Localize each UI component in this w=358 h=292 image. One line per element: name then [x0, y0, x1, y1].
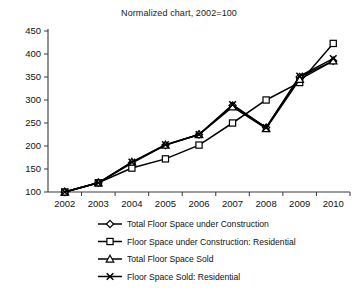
legend-item-3[interactable]: Total Floor Space Sold [98, 254, 214, 264]
chart-plot-area: 100150200250300350400450 200220032004200… [0, 0, 358, 292]
series-line [65, 59, 333, 192]
marker-square [196, 142, 202, 148]
series-4 [61, 55, 336, 195]
legend-label: Floor Space under Construction: Resident… [127, 237, 296, 247]
marker-diamond [106, 220, 113, 227]
y-tick-label: 250 [25, 117, 41, 128]
marker-square [129, 165, 135, 171]
y-axis: 100150200250300350400450 [25, 25, 48, 197]
x-tick-label: 2004 [121, 198, 142, 209]
series-line [65, 61, 333, 192]
y-tick-label: 300 [25, 94, 41, 105]
x-tick-label: 2009 [289, 198, 310, 209]
series-layer [61, 40, 337, 195]
marker-square [263, 97, 269, 103]
y-tick-label: 100 [25, 186, 41, 197]
x-tick-label: 2003 [88, 198, 109, 209]
chart-container: Normalized chart, 2002=100 1001502002503… [0, 0, 358, 292]
marker-square [229, 120, 235, 126]
x-tick-label: 2007 [222, 198, 243, 209]
y-tick-label: 450 [25, 25, 41, 36]
chart-legend: Total Floor Space under ConstructionFloo… [98, 219, 296, 282]
series-2 [62, 40, 337, 195]
x-tick-label: 2002 [54, 198, 75, 209]
y-tick-label: 350 [25, 71, 41, 82]
marker-square [330, 40, 336, 46]
x-tick-label: 2010 [323, 198, 344, 209]
marker-square [162, 156, 168, 162]
series-3 [61, 57, 337, 195]
series-1 [61, 57, 337, 195]
legend-label: Floor Space Sold: Residential [127, 272, 240, 282]
legend-label: Total Floor Space Sold [127, 254, 214, 264]
y-tick-label: 400 [25, 48, 41, 59]
x-tick-label: 2008 [256, 198, 277, 209]
marker-square [107, 238, 113, 244]
legend-item-1[interactable]: Total Floor Space under Construction [98, 219, 269, 229]
legend-item-4[interactable]: Floor Space Sold: Residential [98, 272, 240, 282]
legend-item-2[interactable]: Floor Space under Construction: Resident… [98, 237, 296, 247]
y-tick-label: 150 [25, 163, 41, 174]
y-tick-label: 200 [25, 140, 41, 151]
x-tick-label: 2006 [188, 198, 209, 209]
legend-label: Total Floor Space under Construction [127, 219, 269, 229]
x-axis: 200220032004200520062007200820092010 [48, 192, 350, 209]
series-line [65, 61, 333, 192]
x-tick-label: 2005 [155, 198, 176, 209]
series-line [65, 43, 333, 192]
